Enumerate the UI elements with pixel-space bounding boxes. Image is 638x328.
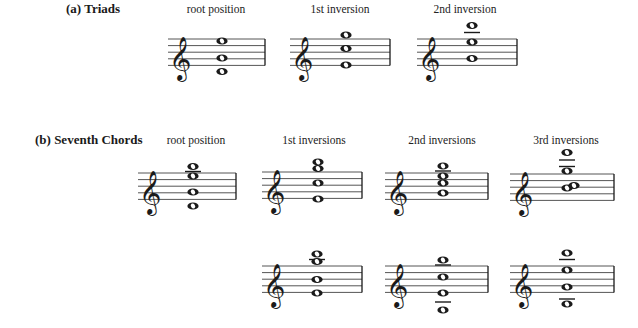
treble-clef-icon: 𝄞 [263, 169, 285, 215]
treble-clef-icon: 𝄞 [511, 171, 533, 217]
treble-clef-icon: 𝄞 [386, 170, 408, 216]
treble-clef-icon: 𝄞 [386, 263, 408, 309]
treble-clef-icon: 𝄞 [263, 263, 285, 309]
treble-clef-icon: 𝄞 [511, 263, 533, 309]
treble-clef-icon: 𝄞 [139, 170, 161, 216]
staves-svg: 𝄞𝄞𝄞𝄞𝄞𝄞𝄞𝄞𝄞𝄞 [0, 0, 638, 328]
treble-clef-icon: 𝄞 [291, 36, 313, 82]
treble-clef-icon: 𝄞 [169, 36, 191, 82]
treble-clef-icon: 𝄞 [418, 36, 440, 82]
